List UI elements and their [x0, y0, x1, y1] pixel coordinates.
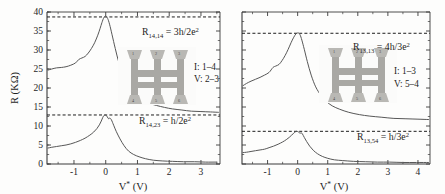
inset-contact-label-6: 6 [178, 98, 180, 103]
y-tick-label: 15 [34, 102, 44, 112]
inset-contact-label-1: 1 [333, 49, 335, 54]
inset-contact-label-6: 6 [379, 96, 381, 101]
x-tick-label: 0 [295, 167, 300, 177]
inset-device-image-left: 1 2 3 4 5 6 [118, 47, 196, 105]
annotation-upper-formula-left: R14,14 = 3h/2e2 [142, 26, 199, 39]
annotation-current-leads-left: I: 1–4 [194, 62, 216, 72]
x-tick-label: -1 [70, 167, 78, 177]
y-tick-label: 5 [38, 140, 43, 150]
annotation-lower-formula-left: R14,23 = h/2e2 [139, 115, 191, 128]
inset-contact-label-5: 5 [155, 98, 157, 103]
x-axis-title-left: V* (V) [119, 180, 148, 193]
x-tick-label: 2 [167, 167, 172, 177]
y-axis-title-left: R (KΩ) [9, 71, 21, 104]
figure-root: 0510152025303540 -10123 [0, 0, 445, 194]
x-tick-label: 2 [355, 167, 360, 177]
y-tick-label: 35 [34, 26, 44, 36]
annotation-voltage-leads-right: V: 5–4 [394, 79, 419, 89]
chart-svg-left: 0510152025303540 -10123 [0, 0, 222, 194]
inset-contact-label-5: 5 [356, 96, 358, 101]
annotation-current-leads-right: I: 1–3 [394, 66, 416, 76]
y-tick-label: 20 [34, 83, 44, 93]
x-axis-title-right: V* (V) [320, 180, 349, 193]
y-tick-label: 0 [38, 159, 43, 169]
annotation-voltage-leads-left: V: 2–3 [194, 74, 219, 84]
x-tick-label: 0 [103, 167, 108, 177]
x-tick-label: 3 [386, 167, 391, 177]
inset-contact-label-2: 2 [155, 51, 157, 56]
x-tick-label: 4 [416, 167, 421, 177]
data-curve [48, 115, 217, 162]
x-tick-label: -1 [264, 167, 272, 177]
chart-svg-right: -101234 [222, 0, 445, 194]
inset-device-image-right: 1 2 3 4 5 6 [319, 45, 397, 103]
x-tick-label: 1 [325, 167, 330, 177]
x-tick-label: 3 [199, 167, 204, 177]
inset-contact-label-1: 1 [132, 51, 134, 56]
inset-contact-label-3: 3 [178, 51, 180, 56]
annotation-upper-formula-right: R13,13 = 4h/3e2 [353, 41, 410, 54]
y-tick-label: 25 [34, 64, 44, 74]
y-tick-label: 40 [34, 7, 44, 17]
y-tick-label: 30 [34, 45, 44, 55]
y-tick-label: 10 [34, 121, 44, 131]
x-tick-label: 1 [135, 167, 140, 177]
annotation-lower-formula-right: R13,54 = h/3e2 [357, 131, 409, 144]
chart-panel-left: 0510152025303540 -10123 [0, 0, 222, 194]
chart-panel-right: -101234 [222, 0, 445, 194]
